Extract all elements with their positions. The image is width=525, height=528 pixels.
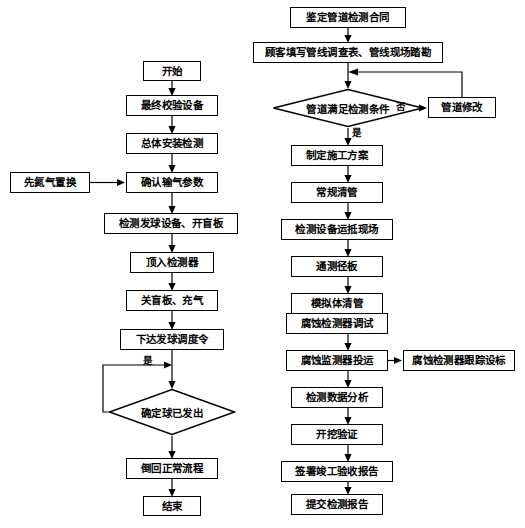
edge-label-no-branch: 否 [396,102,406,112]
node-nitrogen-purge-first[interactable]: 先氮气置换 [10,172,90,193]
decision-label: 确定球已发出 [141,405,203,420]
node-start[interactable]: 开始 [143,61,201,81]
decision-label: 管道满足检测条件 [306,101,389,116]
decision-ball-launched-confirmed[interactable]: 确定球已发出 [108,388,236,436]
node-confirm-gas-parameters[interactable]: 确认输气参数 [126,172,218,193]
node-dummy-pig-run[interactable]: 模拟体清管 [291,293,383,314]
node-issue-launch-dispatch-order[interactable]: 下达发球调度令 [120,329,224,350]
node-excavation-verification[interactable]: 开挖验证 [291,424,383,445]
node-insert-detector[interactable]: 顶入检测器 [130,252,214,273]
node-customer-fills-survey-and-site-recon[interactable]: 顾客填写管线调查表、管线现场踏勘 [253,42,443,63]
node-corrosion-detector-commissioning[interactable]: 腐蚀检测器调试 [286,313,388,334]
node-final-calibration-equipment[interactable]: 最终校验设备 [126,95,218,116]
node-return-to-normal-process[interactable]: 倒回正常流程 [126,458,218,479]
node-equipment-arrives-on-site[interactable]: 检测设备运抵现场 [281,219,393,240]
node-submit-inspection-report[interactable]: 提交检测报告 [291,494,383,515]
node-corrosion-monitor-deployment[interactable]: 腐蚀监测器投运 [286,350,388,371]
node-sign-completion-acceptance-report[interactable]: 签署竣工验收报告 [281,461,393,482]
node-inspect-launcher-open-blind-plate[interactable]: 检测发球设备、开盲板 [104,213,238,234]
edge-label-yes-branch: 是 [352,128,362,138]
node-gauging-plate-run[interactable]: 通测径板 [291,256,383,277]
edge-label-yes-loop: 是 [143,356,153,366]
flowchart-connectors [0,0,525,528]
node-overall-installation-inspection[interactable]: 总体安装检测 [126,133,218,154]
node-end[interactable]: 结束 [143,496,201,516]
flowchart-canvas: 开始 最终校验设备 总体安装检测 确认输气参数 检测发球设备、开盲板 顶入检测器… [0,0,525,528]
node-sign-pipeline-inspection-contract[interactable]: 鉴定管道检测合同 [290,7,406,28]
node-inspection-data-analysis[interactable]: 检测数据分析 [291,387,383,408]
node-pipeline-modification[interactable]: 管道修改 [428,97,496,118]
node-close-blind-plate-inflate[interactable]: 关盲板、充气 [126,290,218,311]
node-corrosion-detector-tracking-marking[interactable]: 腐蚀检测器跟踪设标 [403,350,515,371]
node-formulate-construction-plan[interactable]: 制定施工方案 [291,145,383,166]
node-routine-pigging[interactable]: 常规清管 [291,182,383,203]
